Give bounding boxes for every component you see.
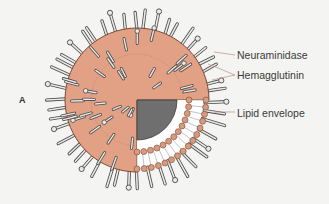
label-neuraminidase: Neuraminidase bbox=[237, 50, 308, 61]
leader-line-neuraminidase bbox=[214, 52, 235, 55]
lipid-head bbox=[175, 129, 181, 135]
label-lipid-envelope: Lipid envelope bbox=[237, 108, 305, 119]
neuraminidase-head bbox=[206, 146, 211, 151]
surface-spike bbox=[96, 103, 106, 104]
lipid-head bbox=[171, 134, 177, 140]
label-hemagglutinin: Hemagglutinin bbox=[237, 70, 304, 81]
neuraminidase-spike bbox=[168, 161, 175, 180]
neuraminidase-head bbox=[126, 185, 131, 190]
lipid-head bbox=[200, 118, 206, 124]
lipid-head bbox=[134, 166, 140, 172]
lipid-head bbox=[155, 163, 161, 169]
lipid-head bbox=[185, 143, 191, 149]
virus-illustration bbox=[0, 0, 329, 204]
lipid-head bbox=[175, 153, 181, 159]
lipid-head bbox=[180, 148, 186, 154]
surface-neuraminidase-head bbox=[182, 61, 187, 66]
lipid-head bbox=[203, 97, 209, 103]
lipid-head bbox=[162, 160, 168, 166]
surface-neuraminidase-head bbox=[102, 120, 107, 125]
virus-diagram: A Neuraminidase Hemagglutinin Lipid enve… bbox=[0, 0, 329, 204]
lipid-head bbox=[134, 149, 140, 155]
lipid-head bbox=[166, 138, 172, 144]
panel-letter: A bbox=[19, 95, 26, 105]
lipid-head bbox=[201, 111, 207, 117]
neuraminidase-head bbox=[107, 10, 112, 15]
lipid-head bbox=[197, 125, 203, 131]
lipid-head bbox=[186, 97, 192, 103]
surface-neuraminidase-head bbox=[135, 29, 140, 34]
lipid-head bbox=[190, 138, 196, 144]
lipid-head bbox=[179, 123, 185, 129]
lipid-head bbox=[184, 110, 190, 116]
neuraminidase-head bbox=[173, 177, 178, 182]
lipid-head bbox=[182, 117, 188, 123]
lipid-head bbox=[147, 147, 153, 153]
leader-line-hemagglutinin bbox=[208, 64, 235, 75]
lipid-head bbox=[169, 157, 175, 163]
neuraminidase-head bbox=[224, 99, 229, 104]
neuraminidase-head bbox=[67, 40, 72, 45]
lipid-head bbox=[141, 166, 147, 172]
neuraminidase-head bbox=[156, 9, 161, 14]
neuraminidase-head bbox=[45, 81, 50, 86]
lipid-head bbox=[160, 142, 166, 148]
lipid-head bbox=[194, 132, 200, 138]
neuraminidase-head bbox=[51, 126, 56, 131]
surface-neuraminidase-head bbox=[152, 26, 157, 31]
lipid-head bbox=[203, 104, 209, 110]
neuraminidase-head bbox=[195, 36, 200, 41]
neuraminidase-head bbox=[79, 166, 84, 171]
surface-neuraminidase-head bbox=[83, 89, 88, 94]
lipid-head bbox=[154, 145, 160, 151]
lipid-head bbox=[141, 149, 147, 155]
lipid-head bbox=[148, 164, 154, 170]
lipid-head bbox=[186, 104, 192, 110]
